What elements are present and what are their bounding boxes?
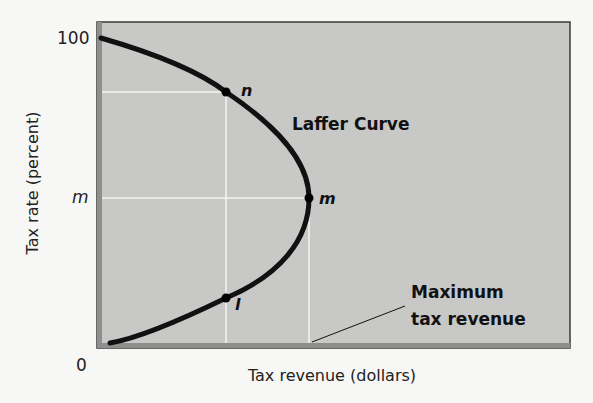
- point-n-label: n: [241, 81, 252, 100]
- y-axis-title: Tax rate (percent): [23, 112, 42, 256]
- x-axis: [97, 343, 570, 348]
- point-l: [222, 294, 231, 303]
- point-m-label: m: [319, 189, 336, 208]
- point-n: [222, 88, 231, 97]
- y-axis: [97, 22, 102, 348]
- annotation-line-2: tax revenue: [411, 309, 526, 329]
- laffer-curve-chart: n m l Laffer Curve Maximum tax revenue 1…: [0, 0, 593, 403]
- curve-title: Laffer Curve: [292, 114, 409, 134]
- point-m: [305, 194, 314, 203]
- point-l-label: l: [235, 295, 241, 314]
- x-axis-title: Tax revenue (dollars): [247, 366, 416, 385]
- y-tick-m: m: [72, 187, 89, 207]
- y-tick-100: 100: [57, 28, 89, 48]
- annotation-line-1: Maximum: [411, 282, 504, 302]
- origin-label: 0: [76, 355, 87, 375]
